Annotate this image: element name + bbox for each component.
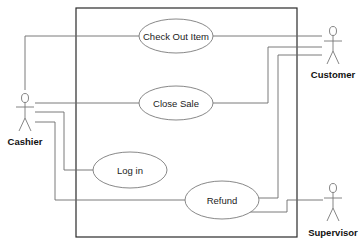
use-case-refund[interactable]: Refund [185,181,259,219]
use-case-label: Refund [207,195,238,206]
actor-customer[interactable]: Customer [311,27,356,81]
assoc-cashier-login [35,112,94,170]
use-case-label: Log in [117,165,143,176]
stick-figure-icon [324,27,342,65]
association-lines [25,36,323,212]
use-case-diagram: Check Out Item Close Sale Log in Refund … [0,0,361,244]
actor-label: Cashier [8,136,43,147]
stick-figure-icon [16,94,34,132]
use-case-check-out-item[interactable]: Check Out Item [139,19,213,53]
assoc-supervisor-refund [250,200,323,212]
use-case-close-sale[interactable]: Close Sale [139,86,213,120]
actor-label: Customer [311,69,356,80]
actor-cashier[interactable]: Cashier [8,94,43,148]
use-case-label: Close Sale [153,98,199,109]
assoc-cashier-checkout [25,36,140,90]
actor-supervisor[interactable]: Supervisor [308,184,358,239]
stick-figure-icon [324,184,342,222]
actor-label: Supervisor [308,227,358,238]
use-case-label: Check Out Item [143,31,209,42]
use-case-log-in[interactable]: Log in [93,152,167,188]
